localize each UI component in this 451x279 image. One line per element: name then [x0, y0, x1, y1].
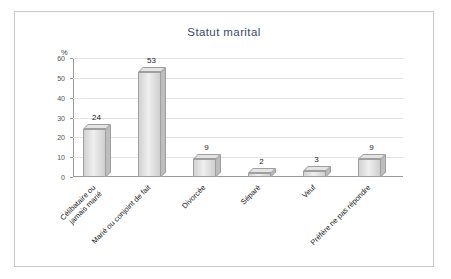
bar-front-face [303, 171, 326, 177]
gridline [73, 137, 403, 138]
bar-value-label: 24 [77, 113, 117, 122]
y-tick-label: 10 [45, 154, 65, 161]
y-tick-label: 60 [45, 55, 65, 62]
bar [83, 129, 106, 177]
y-tick-label: 50 [45, 75, 65, 82]
x-category-label: Célibataire ou jamais marié [58, 183, 103, 228]
bar-value-label: 3 [297, 155, 337, 164]
bar-front-face [358, 159, 381, 177]
bar [358, 159, 381, 177]
bar [193, 159, 216, 177]
gridline [73, 58, 403, 59]
bar [138, 72, 161, 177]
bar-side-face [106, 124, 111, 177]
gridline [73, 157, 403, 158]
y-tick-mark [70, 98, 73, 99]
bar [248, 173, 271, 177]
y-tick-mark [70, 137, 73, 138]
bar-front-face [248, 173, 271, 177]
y-tick-mark [70, 177, 73, 178]
y-tick-label: 20 [45, 134, 65, 141]
bar-front-face [138, 72, 161, 177]
bar-top-face [138, 67, 166, 72]
x-axis-line [73, 176, 403, 177]
bar-side-face [161, 67, 166, 177]
chart-card: Statut marital % 010203040506024Célibata… [14, 11, 434, 267]
x-category-label: Veuf [300, 183, 317, 200]
bar-value-label: 9 [352, 143, 392, 152]
x-category-label: Préfère ne pas répondre [308, 183, 372, 247]
bar-front-face [193, 159, 216, 177]
y-tick-label: 0 [45, 174, 65, 181]
y-tick-mark [70, 157, 73, 158]
chart-title: Statut marital [15, 26, 433, 38]
gridline [73, 118, 403, 119]
bar-value-label: 9 [187, 143, 227, 152]
bar [303, 171, 326, 177]
x-category-label: Séparé [238, 183, 261, 206]
y-tick-mark [70, 78, 73, 79]
y-tick-label: 40 [45, 95, 65, 102]
x-category-label: Divorcée [180, 183, 207, 210]
gridline [73, 78, 403, 79]
plot-area [73, 58, 403, 177]
bar-value-label: 53 [132, 56, 172, 65]
y-tick-mark [70, 58, 73, 59]
bar-value-label: 2 [242, 157, 282, 166]
y-tick-label: 30 [45, 115, 65, 122]
bar-front-face [83, 129, 106, 177]
gridline [73, 98, 403, 99]
y-tick-mark [70, 118, 73, 119]
